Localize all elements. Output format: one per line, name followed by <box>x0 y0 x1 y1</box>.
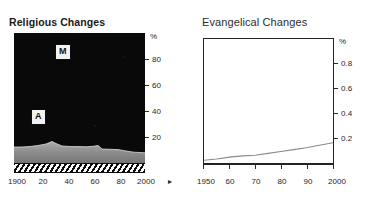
y-tick-40 <box>145 111 149 112</box>
hatched-baseline-axis <box>14 163 145 173</box>
y-tick-label-60: 60 <box>152 82 161 90</box>
y-tick-label-0-8: 0.8 <box>341 60 352 68</box>
x-tick-1990 <box>307 165 308 169</box>
chart-panel-religious-changes: Religious Changes <box>0 0 190 202</box>
y-tick-label-80: 80 <box>152 56 161 64</box>
x-tick-label-1950: 1950 <box>197 178 215 186</box>
y-tick-label-0-4: 0.4 <box>341 110 352 118</box>
x-tick-label-1920: 20 <box>39 178 48 186</box>
series-label-a: A <box>31 109 46 125</box>
x-tick-label-1900: 1900 <box>8 178 26 186</box>
y-tick-80 <box>145 59 149 60</box>
y-axis-unit-left: % <box>150 33 157 41</box>
x-tick-1970 <box>255 165 256 169</box>
x-tick-label-1960: 60 <box>226 178 235 186</box>
y-tick-0-8 <box>334 63 338 64</box>
page-title-secondary: Evangelical Changes <box>202 16 307 28</box>
y-tick-0-6 <box>334 88 338 89</box>
figure-canvas: Religious Changes <box>0 0 380 202</box>
chart-panel-evangelical-changes: Evangelical Changes % 0.8 0.6 0.4 0.2 19… <box>190 0 380 202</box>
y-tick-label-40: 40 <box>152 108 161 116</box>
x-axis-line-right <box>203 163 334 165</box>
y-tick-0-4 <box>334 113 338 114</box>
x-tick-label-2000: 2000 <box>328 178 346 186</box>
series-label-m: M <box>55 44 71 60</box>
y-tick-label-20: 20 <box>152 134 161 142</box>
y-tick-label-0-2: 0.2 <box>341 135 352 143</box>
area-series-other <box>14 33 145 164</box>
x-tick-label-1960: 60 <box>91 178 100 186</box>
y-tick-60 <box>145 85 149 86</box>
x-tick-label-1980: 80 <box>117 178 126 186</box>
y-axis-unit-right: % <box>339 38 346 46</box>
plot-area-evangelical-changes <box>203 38 334 164</box>
y-tick-0-2 <box>334 138 338 139</box>
y-tick-label-0-6: 0.6 <box>341 85 352 93</box>
x-tick-label-1990: 90 <box>304 178 313 186</box>
x-tick-1960 <box>229 165 230 169</box>
x-tick-1980 <box>281 165 282 169</box>
plot-area-religious-changes <box>14 33 145 164</box>
x-tick-label-1980: 80 <box>278 178 287 186</box>
x-tick-1950 <box>203 165 204 169</box>
page-title: Religious Changes <box>9 16 105 28</box>
x-axis-arrow-icon-left: ▸ <box>168 178 172 186</box>
x-tick-2000 <box>333 165 334 169</box>
x-tick-label-2000: 2000 <box>137 178 155 186</box>
x-tick-label-1940: 40 <box>65 178 74 186</box>
x-tick-label-1970: 70 <box>252 178 261 186</box>
y-tick-20 <box>145 137 149 138</box>
